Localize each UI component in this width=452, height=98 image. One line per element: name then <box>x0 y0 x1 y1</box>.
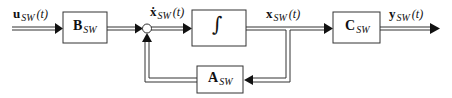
block-diagram: uSW(t) ẋSW(t) xSW(t) ySW(t) BSW ∫ CSW AS… <box>0 0 452 98</box>
state-arg: (t) <box>289 7 300 21</box>
output-symbol: y <box>389 6 396 21</box>
block-b: BSW <box>73 18 97 34</box>
output-arg: (t) <box>412 7 423 21</box>
block-c: CSW <box>345 18 369 34</box>
block-b-subscript: SW <box>83 24 96 35</box>
xdot-arg: (t) <box>173 5 184 19</box>
block-a: ASW <box>208 70 232 86</box>
state-subscript: SW <box>274 12 287 23</box>
summing-junction <box>143 24 152 33</box>
block-a-symbol: A <box>208 70 218 85</box>
input-symbol: u <box>13 6 20 21</box>
input-arg: (t) <box>37 7 48 21</box>
input-signal-label: uSW(t) <box>13 6 48 22</box>
xdot-signal-label: ẋSW(t) <box>150 4 184 20</box>
block-c-subscript: SW <box>356 24 369 35</box>
block-a-subscript: SW <box>219 76 232 87</box>
input-subscript: SW <box>21 12 34 23</box>
xdot-symbol: ẋ <box>150 4 157 19</box>
block-c-symbol: C <box>345 18 355 33</box>
output-signal-label: ySW(t) <box>389 6 423 22</box>
xdot-subscript: SW <box>158 10 171 21</box>
state-signal-label: xSW(t) <box>266 6 300 22</box>
block-b-symbol: B <box>73 18 82 33</box>
integral-symbol: ∫ <box>212 12 222 36</box>
integrator-block: ∫ <box>212 12 222 36</box>
state-symbol: x <box>266 6 273 21</box>
output-subscript: SW <box>397 12 410 23</box>
